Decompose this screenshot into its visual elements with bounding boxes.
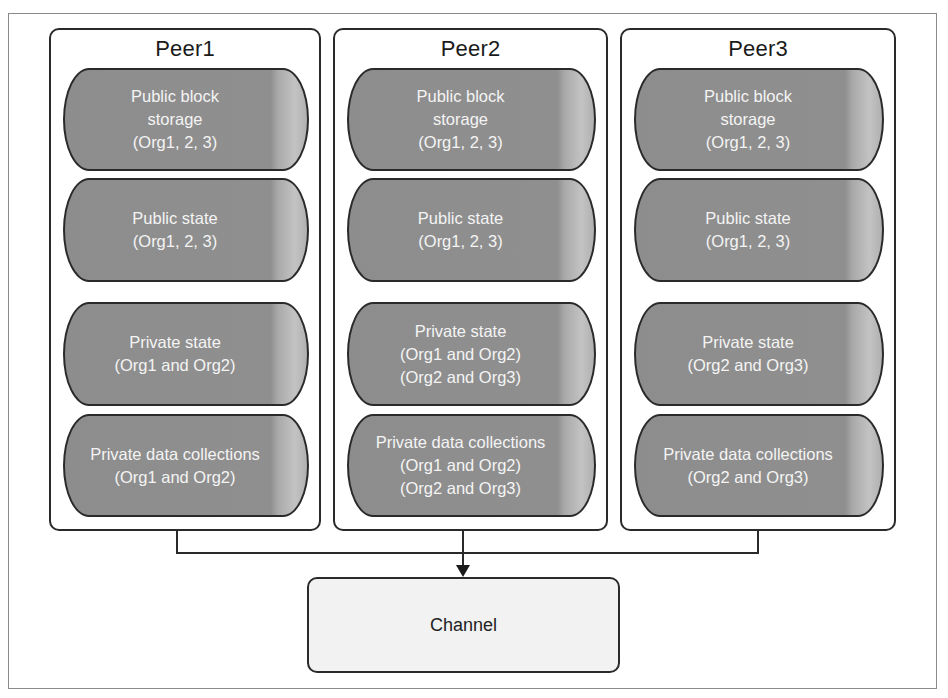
channel-label: Channel [430, 615, 497, 636]
arrow-down-icon [456, 565, 470, 577]
channel-box: Channel [307, 577, 620, 673]
